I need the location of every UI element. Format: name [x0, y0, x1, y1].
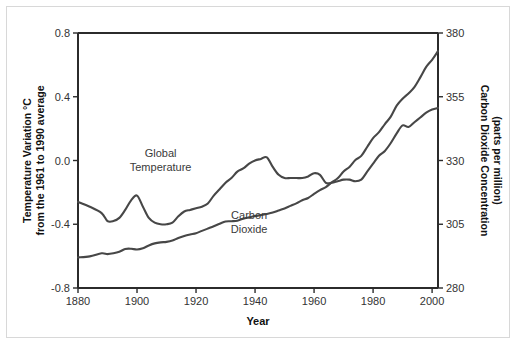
figure-root: -0.8-0.40.00.40.8 280305330355380 188019…	[0, 0, 518, 346]
climate-line-chart: -0.8-0.40.00.40.8 280305330355380 188019…	[0, 0, 518, 346]
left-axis-tick-labels: -0.8-0.40.00.40.8	[51, 27, 70, 294]
right-axis-title-line1: Carbon Dioxide Concentration	[479, 85, 491, 237]
left-tick-label: -0.4	[51, 218, 70, 230]
right-axis-title-line2: (parts per million)	[492, 116, 504, 205]
x-tick-label: 1920	[184, 295, 208, 307]
x-tick-label: 2000	[420, 295, 444, 307]
x-tick-label: 1980	[361, 295, 385, 307]
left-tick-label: 0.8	[55, 27, 70, 39]
annotation-global-temperature-line2: Temperature	[130, 161, 192, 173]
right-tick-label: 280	[446, 282, 464, 294]
left-axis-title-line2: from the 1961 to 1990 average	[34, 85, 46, 235]
x-tick-label: 1940	[243, 295, 267, 307]
annotation-carbon-dioxide-line1: Carbon	[231, 209, 267, 221]
x-tick-label: 1880	[66, 295, 90, 307]
x-axis-title: Year	[246, 315, 270, 327]
annotation-carbon-dioxide-line2: Dioxide	[231, 223, 268, 235]
left-tick-label: 0.0	[55, 155, 70, 167]
x-tick-label: 1960	[302, 295, 326, 307]
left-tick-label: -0.8	[51, 282, 70, 294]
x-axis-tick-labels: 1880190019201940196019802000	[66, 295, 445, 307]
right-tick-label: 330	[446, 155, 464, 167]
left-tick-label: 0.4	[55, 91, 70, 103]
right-tick-label: 355	[446, 91, 464, 103]
x-tick-label: 1900	[125, 295, 149, 307]
left-axis-title-line1: Temperature Variation °C	[21, 98, 33, 223]
right-tick-label: 305	[446, 218, 464, 230]
right-axis-tick-labels: 280305330355380	[446, 27, 464, 294]
annotation-global-temperature-line1: Global	[145, 147, 177, 159]
right-tick-label: 380	[446, 27, 464, 39]
